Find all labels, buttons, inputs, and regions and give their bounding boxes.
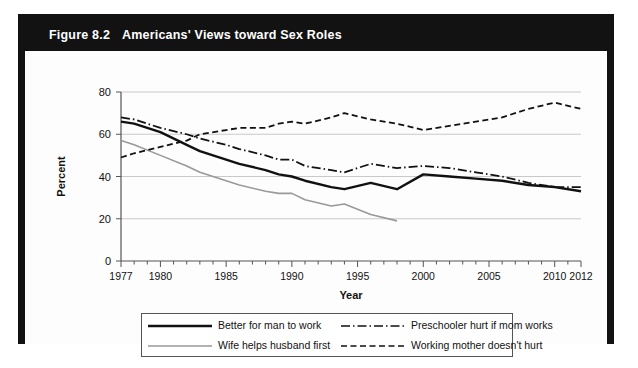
x-tick-label: 2012 — [569, 270, 593, 282]
chart-area: 0204060801977198019851990199520002005201… — [25, 51, 607, 344]
y-axis-title: Percent — [55, 156, 67, 197]
legend-swatch — [341, 344, 405, 348]
chart-legend: Better for man to workWife helps husband… — [141, 313, 513, 357]
figure-number: Figure 8.2 — [49, 28, 110, 42]
series-line-1 — [121, 141, 397, 221]
legend-swatch — [148, 344, 212, 348]
y-tick-label: 0 — [105, 255, 111, 267]
x-tick-label: 2000 — [412, 270, 436, 282]
x-tick-label: 1980 — [149, 270, 173, 282]
y-tick-label: 40 — [99, 171, 111, 183]
legend-label: Preschooler hurt if mom works — [411, 319, 553, 331]
figure-header-band: Figure 8.2 Americans' Views toward Sex R… — [25, 21, 607, 51]
line-chart-svg: 0204060801977198019851990199520002005201… — [25, 51, 607, 344]
figure-title: Americans' Views toward Sex Roles — [122, 28, 342, 42]
y-tick-label: 80 — [99, 86, 111, 98]
x-tick-label: 2005 — [477, 270, 501, 282]
series-line-3 — [121, 103, 581, 158]
x-tick-label: 1977 — [109, 270, 133, 282]
x-tick-label: 2010 — [543, 270, 567, 282]
legend-swatch — [148, 324, 212, 328]
x-tick-label: 1990 — [280, 270, 304, 282]
y-tick-label: 20 — [99, 213, 111, 225]
x-axis-title: Year — [339, 289, 363, 301]
legend-swatch — [341, 324, 405, 328]
y-tick-label: 60 — [99, 128, 111, 140]
x-tick-label: 1995 — [346, 270, 370, 282]
legend-label: Wife helps husband first — [218, 339, 330, 351]
legend-label: Better for man to work — [218, 319, 321, 331]
x-tick-label: 1985 — [214, 270, 238, 282]
figure-container: Figure 8.2 Americans' Views toward Sex R… — [18, 14, 614, 344]
series-line-0 — [121, 122, 581, 192]
legend-label: Working mother doesn't hurt — [411, 339, 542, 351]
